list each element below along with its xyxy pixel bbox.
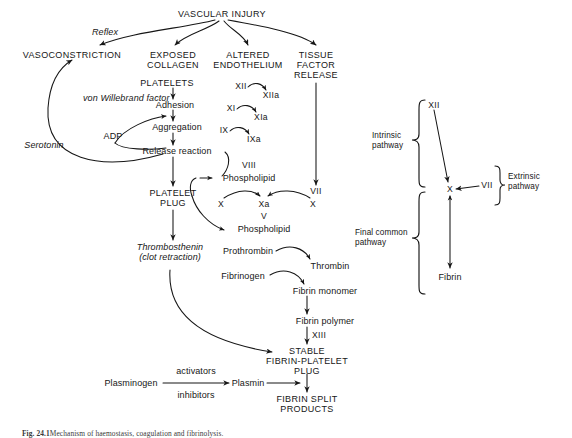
label-prothrombin: Prothrombin <box>223 246 273 257</box>
label-right-f10: X <box>447 184 453 195</box>
label-fibrin-polymer: Fibrin polymer <box>296 316 354 327</box>
label-endothelium: ENDOTHELIUM <box>213 60 282 71</box>
label-products: PRODUCTS <box>280 404 333 415</box>
label-factor-xi: XI <box>227 103 236 114</box>
label-factor: FACTOR <box>297 60 335 71</box>
brace-intrinsic <box>412 100 425 187</box>
label-factor-xii: XII <box>235 81 246 92</box>
label-fibrin-monomer: Fibrin monomer <box>293 286 357 297</box>
label-altered: ALTERED <box>226 50 269 61</box>
label-factor-xiia: XIIa <box>263 90 280 101</box>
label-fibrinogen: Fibrinogen <box>221 271 265 282</box>
label-clot-retraction: (clot retraction) <box>139 252 201 263</box>
label-platelets: PLATELETS <box>140 78 194 89</box>
label-plasminogen: Plasminogen <box>104 378 157 389</box>
label-right-f12: XII <box>428 100 439 111</box>
label-phospholipid-lower: Phospholipid <box>238 224 291 235</box>
arrow-f10-f10a-left <box>224 191 260 198</box>
label-factor-x-right: X <box>310 199 316 210</box>
arrow-injury-to-tissue-factor <box>228 20 316 45</box>
label-final-common-1: Final common <box>355 228 408 238</box>
label-extrinsic-2: pathway <box>508 182 539 192</box>
brace-final-common <box>412 192 425 294</box>
label-release-reaction: Release reaction <box>142 146 211 157</box>
label-extrinsic-1: Extrinsic <box>508 172 540 182</box>
arrow-f10-f10a-right <box>268 191 310 198</box>
label-plasmin: Plasmin <box>232 378 265 389</box>
label-right-f7: VII <box>481 180 492 191</box>
label-right-fibrin: Fibrin <box>438 272 461 283</box>
label-activators: activators <box>176 366 216 377</box>
label-factor-viii: VIII <box>242 160 256 171</box>
label-serotonin: Serotonin <box>24 140 63 151</box>
label-thrombin: Thrombin <box>311 261 350 272</box>
label-factor-vii: VII <box>310 186 321 197</box>
label-platelet-plug-2: PLUG <box>160 198 186 209</box>
label-factor-xa: Xa <box>258 199 269 210</box>
label-factor-xiii: XIII <box>312 330 326 341</box>
figure-caption-number: Fig. 24.1 <box>22 429 50 438</box>
label-phospholipid-upper: Phospholipid <box>223 173 276 184</box>
label-factor-x-left: X <box>218 199 224 210</box>
label-factor-xia: XIa <box>254 112 268 123</box>
label-platelet-plug-1: PLATELET <box>149 188 196 199</box>
label-intrinsic-2: pathway <box>372 141 403 151</box>
label-exposed: EXPOSED <box>150 50 196 61</box>
arrow-prothrombin-thrombin <box>276 247 310 259</box>
label-vasoconstriction: VASOCONSTRICTION <box>23 50 121 61</box>
figure-canvas: VASCULAR INJURY Reflex VASOCONSTRICTION … <box>0 0 572 438</box>
label-plug: PLUG <box>294 366 320 377</box>
label-thrombosthenin: Thrombosthenin <box>137 242 203 253</box>
label-factor-ix: IX <box>220 125 229 136</box>
haemostasis-diagram-svg <box>0 0 572 438</box>
arrow-injury-to-collagen <box>175 21 219 45</box>
label-adhesion: Adhesion <box>156 100 194 111</box>
label-adp: ADP <box>104 131 123 142</box>
label-inhibitors: inhibitors <box>177 390 214 401</box>
label-fibrin-platelet: FIBRIN-PLATELET <box>266 356 348 367</box>
arrow-thrombosthenin-stable-plug <box>170 270 272 352</box>
arrow-fibrinogen-fibrin-monomer <box>270 271 304 284</box>
brace-extrinsic <box>495 166 505 205</box>
label-factor-ixa: IXa <box>247 134 261 145</box>
label-tissue: TISSUE <box>299 50 334 61</box>
label-aggregation: Aggregation <box>152 122 202 133</box>
label-final-common-2: pathway <box>355 238 386 248</box>
arrow-injury-to-endothelium <box>224 21 248 45</box>
label-collagen: COLLAGEN <box>147 60 199 71</box>
label-factor-v: V <box>261 211 267 222</box>
arrow-right-f12-f10 <box>434 110 448 182</box>
label-release: RELEASE <box>294 70 338 81</box>
label-intrinsic-1: Intrinsic <box>372 131 401 141</box>
label-fibrin-split: FIBRIN SPLIT <box>276 394 337 405</box>
arrow-right-f7-f10 <box>456 186 479 189</box>
label-reflex: Reflex <box>92 27 118 38</box>
figure-caption: Fig. 24.1Mechanism of haemostasis, coagu… <box>22 429 223 438</box>
label-stable: STABLE <box>289 346 325 357</box>
label-vascular-injury: VASCULAR INJURY <box>178 9 266 20</box>
figure-caption-text: Mechanism of haemostasis, coagulation an… <box>50 429 224 438</box>
